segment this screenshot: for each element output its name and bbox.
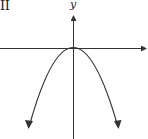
left-arrowhead-icon [25,120,33,129]
parabola-graph [0,0,148,139]
right-arrowhead-icon [114,120,122,129]
